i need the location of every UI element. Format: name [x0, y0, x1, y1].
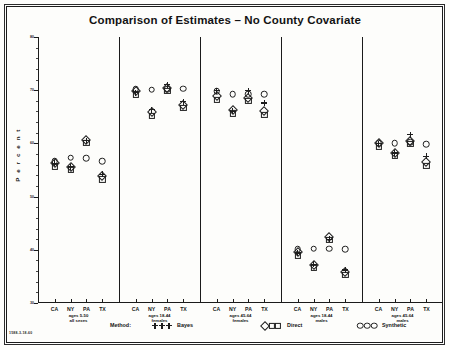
x-tick-label-ca: CA [51, 306, 59, 312]
y-tick-minor [36, 101, 39, 102]
point-synthetic-NY [67, 154, 74, 161]
point-bayes-CA [214, 88, 220, 94]
point-direct-square-TX [180, 105, 186, 111]
point-bayes-PA [326, 236, 332, 242]
point-bayes-PA [164, 82, 170, 88]
x-tick-label-pa: PA [407, 306, 414, 312]
y-tick-minor [36, 271, 39, 272]
y-tick-label: 30 [30, 301, 34, 305]
point-bayes-CA [295, 250, 301, 256]
point-bayes-NY [230, 108, 236, 114]
y-tick-minor [36, 111, 39, 112]
x-tick-label-pa: PA [326, 306, 333, 312]
plus-icon [166, 323, 172, 329]
x-tick-label-pa: PA [245, 306, 252, 312]
legend-glyph-diamond-square-icon [263, 321, 285, 330]
y-tick-major [34, 197, 38, 198]
figure-canvas: Comparison of Estimates – No County Cova… [0, 0, 450, 350]
x-tick [102, 299, 103, 303]
x-tick [345, 299, 346, 303]
point-direct-square-TX [261, 111, 267, 117]
x-tick [183, 299, 184, 303]
x-tick-label-tx: TX [423, 306, 430, 312]
y-axis-label: P e r c e n t [14, 128, 21, 182]
y-tick-minor [36, 69, 39, 70]
x-tick [86, 299, 87, 303]
y-tick-label: 40 [30, 248, 34, 252]
x-tick-label-ny: NY [148, 306, 155, 312]
point-synthetic-NY [229, 91, 236, 98]
x-tick-label-ny: NY [67, 306, 74, 312]
x-tick-label-ny: NY [310, 306, 317, 312]
x-tick [55, 299, 56, 303]
legend-label: Synthetic [382, 322, 406, 328]
y-tick-minor [36, 154, 39, 155]
point-direct-square-PA [245, 98, 251, 104]
y-tick-minor [36, 165, 39, 166]
point-bayes-PA [83, 138, 89, 144]
x-tick-label-ca: CA [213, 306, 221, 312]
point-bayes-CA [52, 160, 58, 166]
point-synthetic-TX [261, 91, 268, 98]
point-direct-square-PA [164, 88, 170, 94]
legend-method-label: Method: [110, 322, 131, 328]
y-tick-major [34, 37, 38, 38]
x-tick-label-ca: CA [375, 306, 383, 312]
point-synthetic-NY [148, 86, 155, 93]
circle-icon [364, 322, 371, 329]
panel-divider [362, 37, 363, 303]
y-tick-minor [36, 186, 39, 187]
x-tick [217, 299, 218, 303]
point-synthetic-NY [391, 140, 398, 147]
x-tick [264, 299, 265, 303]
point-bayes-NY [392, 150, 398, 156]
circle-icon [371, 322, 378, 329]
figure-id-note: 1588-3-18-60 [9, 331, 32, 335]
x-tick-label-tx: TX [99, 306, 106, 312]
x-tick [379, 299, 380, 303]
y-tick-minor [36, 80, 39, 81]
point-bayes-TX [180, 99, 186, 105]
y-tick-label: 80 [30, 35, 34, 39]
plot-area: 304050607080 CANYPATXCANYPATXCANYPATXCAN… [38, 37, 443, 303]
legend-label: Direct [287, 322, 302, 328]
plus-icon [159, 323, 165, 329]
y-tick-major [34, 143, 38, 144]
legend-glyph-circle-icon [358, 321, 380, 330]
point-synthetic-NY [310, 245, 317, 252]
x-tick-label-tx: TX [261, 306, 268, 312]
point-bayes-NY [311, 261, 317, 267]
x-axis-line [38, 302, 443, 303]
legend-glyph-plus-icon [153, 321, 175, 330]
point-bayes-PA [407, 132, 413, 138]
x-tick [152, 299, 153, 303]
square-icon [275, 322, 281, 328]
point-direct-square-PA [407, 141, 413, 147]
y-tick-minor [36, 207, 39, 208]
plus-icon [152, 323, 158, 329]
point-synthetic-PA [326, 245, 333, 252]
y-tick-minor [36, 282, 39, 283]
point-bayes-CA [133, 90, 139, 96]
legend-label: Bayes [177, 322, 193, 328]
point-direct-square-NY [148, 113, 154, 119]
x-tick [136, 299, 137, 303]
point-bayes-CA [376, 141, 382, 147]
chart-title: Comparison of Estimates – No County Cova… [0, 14, 450, 26]
point-bayes-TX [423, 153, 429, 159]
point-direct-square-TX [423, 163, 429, 169]
circle-icon [357, 322, 364, 329]
y-tick-minor [36, 292, 39, 293]
y-tick-label: 70 [30, 88, 34, 92]
y-tick-label: 60 [30, 141, 34, 145]
x-tick-label-ny: NY [391, 306, 398, 312]
y-tick-minor [36, 133, 39, 134]
x-tick [329, 299, 330, 303]
x-tick [248, 299, 249, 303]
y-tick-minor [36, 260, 39, 261]
x-tick [426, 299, 427, 303]
x-tick [395, 299, 396, 303]
point-synthetic-TX [342, 246, 349, 253]
y-tick-major [34, 90, 38, 91]
x-tick [71, 299, 72, 303]
